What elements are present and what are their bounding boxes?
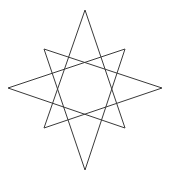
star-polygon-svg [0, 0, 172, 180]
figure-background [0, 0, 172, 180]
star-figure-canvas [0, 0, 172, 180]
